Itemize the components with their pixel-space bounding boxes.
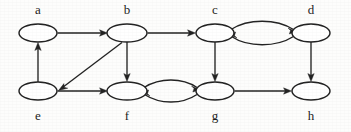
- node-label-h: h: [308, 108, 315, 123]
- edge-d-to-c: [229, 32, 294, 45]
- node-label-g: g: [212, 108, 219, 123]
- node-a-ellipse[interactable]: [19, 24, 57, 42]
- edge-f-to-g: [144, 80, 200, 92]
- node-label-layer: a b c d e f g h: [35, 2, 315, 123]
- node-label-d: d: [308, 2, 315, 17]
- edge-e-to-a: [35, 43, 41, 83]
- node-label-b: b: [124, 2, 131, 17]
- edge-b-to-f: [124, 42, 130, 82]
- node-f[interactable]: [107, 82, 147, 100]
- edge-a-to-b: [58, 30, 108, 36]
- node-c-ellipse[interactable]: [196, 24, 234, 42]
- edge-b-to-e: [59, 43, 123, 91]
- edge-g-to-h: [235, 88, 292, 94]
- edge-c-to-d: [231, 21, 297, 34]
- node-c[interactable]: [196, 24, 234, 42]
- edge-b-to-c: [148, 30, 196, 36]
- node-h-ellipse[interactable]: [292, 82, 330, 100]
- node-b[interactable]: [107, 24, 147, 42]
- node-e[interactable]: [19, 82, 57, 100]
- edge-c-to-g: [212, 42, 218, 82]
- node-label-f: f: [125, 108, 130, 123]
- node-d-ellipse[interactable]: [292, 24, 330, 42]
- node-label-a: a: [35, 2, 41, 17]
- node-g[interactable]: [196, 82, 234, 100]
- node-d[interactable]: [292, 24, 330, 42]
- graph-figure: a b c d e f g h: [0, 0, 351, 132]
- edge-layer: [35, 21, 314, 102]
- node-b-ellipse[interactable]: [107, 24, 147, 42]
- node-a[interactable]: [19, 24, 57, 42]
- node-label-c: c: [212, 2, 218, 17]
- node-label-e: e: [35, 108, 41, 123]
- directed-graph-canvas: a b c d e f g h: [0, 0, 351, 132]
- edge-d-to-h: [308, 42, 314, 82]
- node-e-ellipse[interactable]: [19, 82, 57, 100]
- node-g-ellipse[interactable]: [196, 82, 234, 100]
- node-f-ellipse[interactable]: [107, 82, 147, 100]
- edge-g-to-f: [142, 90, 198, 102]
- node-h[interactable]: [292, 82, 330, 100]
